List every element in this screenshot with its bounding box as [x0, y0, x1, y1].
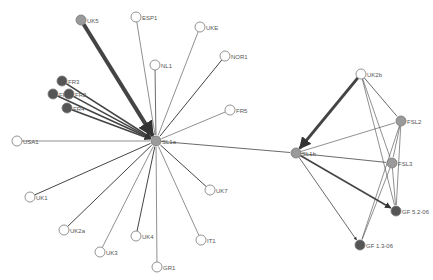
node-circle[interactable] — [356, 69, 366, 79]
node-label: FR2 — [75, 92, 87, 98]
node-circle[interactable] — [95, 247, 105, 257]
node-circle[interactable] — [225, 105, 235, 115]
node-circle[interactable] — [391, 206, 401, 216]
node-circle[interactable] — [291, 148, 301, 158]
node-ESP1[interactable]: ESP1 — [131, 12, 158, 22]
node-UK7[interactable]: UK7 — [205, 185, 228, 195]
node-FR3[interactable]: FR3 — [57, 76, 80, 86]
node-label: NL1 — [161, 63, 173, 69]
node-label: FR4 — [73, 106, 85, 112]
node-UK5[interactable]: UK5 — [76, 15, 99, 25]
node-circle[interactable] — [355, 240, 365, 250]
node-circle[interactable] — [25, 192, 35, 202]
edge-UK4-SL1a — [137, 147, 155, 231]
edge-FR5-SL1a — [162, 112, 226, 139]
edge-SL1a-SL1b — [161, 141, 290, 152]
edge-NOR1-SL1a — [160, 60, 222, 136]
node-label: SL1b — [302, 151, 317, 157]
edge-GR1-SL1a — [156, 147, 157, 262]
node-circle[interactable] — [195, 22, 205, 32]
node-circle[interactable] — [205, 185, 215, 195]
node-label: UK4 — [142, 234, 154, 240]
node-circle[interactable] — [62, 103, 72, 113]
edge-UK2b-GF52 — [362, 79, 394, 205]
node-label: FR3 — [68, 79, 80, 85]
edge-SL1b-FSL2 — [301, 123, 395, 152]
node-circle[interactable] — [396, 116, 406, 126]
node-label: GF 1.3-06 — [366, 243, 394, 249]
node-label: UK3 — [106, 250, 118, 256]
node-circle[interactable] — [387, 158, 397, 168]
node-circle[interactable] — [64, 89, 74, 99]
node-IT1[interactable]: IT1 — [196, 235, 216, 245]
node-label: FSL3 — [398, 161, 413, 167]
node-label: UK2b — [367, 72, 383, 78]
node-circle[interactable] — [48, 89, 58, 99]
node-FR4[interactable]: FR4 — [62, 103, 85, 113]
node-label: FSL2 — [407, 119, 422, 125]
node-label: SL1a — [162, 139, 177, 145]
node-circle[interactable] — [131, 12, 141, 22]
edge-UK2b-SL1b — [300, 78, 358, 149]
node-NL1[interactable]: NL1 — [150, 60, 173, 70]
node-NOR1[interactable]: NOR1 — [220, 51, 248, 61]
node-label: USA1 — [23, 139, 39, 145]
node-circle[interactable] — [59, 225, 69, 235]
edge-SL1b-GF13 — [299, 157, 357, 240]
edge-IT1-SL1a — [158, 146, 198, 235]
node-circle[interactable] — [57, 76, 67, 86]
node-circle[interactable] — [76, 15, 86, 25]
node-label: NOR1 — [231, 54, 248, 60]
node-circle[interactable] — [131, 231, 141, 241]
node-UK4[interactable]: UK4 — [131, 231, 154, 241]
edge-UK2b-FSL3 — [363, 79, 390, 158]
node-UK2a[interactable]: UK2a — [59, 225, 86, 235]
node-label: UK7 — [216, 188, 228, 194]
node-label: GF 5.2-06 — [402, 209, 430, 215]
node-label: ESP1 — [142, 15, 158, 21]
node-circle[interactable] — [152, 262, 162, 272]
node-GR1[interactable]: GR1 — [152, 262, 176, 272]
node-GF13[interactable]: GF 1.3-06 — [355, 240, 394, 250]
edge-UKE-SL1a — [158, 32, 198, 136]
node-label: IT1 — [207, 238, 216, 244]
node-FSL2[interactable]: FSL2 — [396, 116, 422, 126]
edge-NL1-SL1a — [155, 70, 156, 135]
node-label: GR1 — [163, 265, 176, 271]
node-FSL3[interactable]: FSL3 — [387, 158, 413, 168]
edge-FSL3-GF13 — [362, 168, 390, 240]
edge-UK2a-SL1a — [68, 145, 152, 226]
node-circle[interactable] — [151, 136, 161, 146]
edge-UK1-SL1a — [35, 143, 151, 195]
node-circle[interactable] — [196, 235, 206, 245]
node-SL1b[interactable]: SL1b — [291, 148, 317, 158]
node-UK2b[interactable]: UK2b — [356, 69, 383, 79]
node-GF52[interactable]: GF 5.2-06 — [391, 206, 430, 216]
node-circle[interactable] — [150, 60, 160, 70]
node-USA1[interactable]: USA1 — [12, 136, 39, 146]
node-circle[interactable] — [12, 136, 22, 146]
node-label: UK5 — [87, 18, 99, 24]
node-label: FR5 — [236, 108, 248, 114]
edge-UK5-SL1a — [84, 24, 153, 136]
node-label: UKE — [206, 25, 218, 31]
node-label: UK2a — [70, 228, 86, 234]
edge-FR1-SL1a — [58, 96, 151, 138]
node-label: UK1 — [36, 195, 48, 201]
network-diagram: UK5ESP1UKENL1NOR1FR5FR3FR1FR2FR4USA1UK1U… — [0, 0, 433, 280]
node-UKE[interactable]: UKE — [195, 22, 218, 32]
node-UK3[interactable]: UK3 — [95, 247, 118, 257]
node-FR5[interactable]: FR5 — [225, 105, 248, 115]
nodes-layer: UK5ESP1UKENL1NOR1FR5FR3FR1FR2FR4USA1UK1U… — [12, 12, 430, 272]
node-circle[interactable] — [220, 51, 230, 61]
edges-layer — [22, 22, 401, 262]
